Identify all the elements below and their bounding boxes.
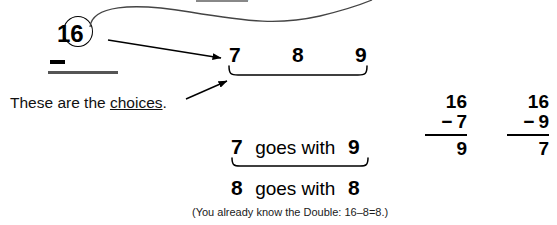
problem-2-subtrahend-row: −9 bbox=[497, 112, 549, 132]
problem-1-subtrahend-row: −7 bbox=[415, 112, 467, 132]
problem-1-difference: 9 bbox=[415, 139, 467, 159]
callout-text-after: . bbox=[163, 94, 167, 111]
pair-row-2: 8 goes with 8 bbox=[231, 177, 360, 199]
double-fact-footnote: (You already know the Double: 16–8=8.) bbox=[192, 207, 388, 218]
clipped-top-rule bbox=[196, 0, 248, 2]
problem-2-minuend: 16 bbox=[497, 92, 549, 112]
choice-digit-8: 8 bbox=[292, 44, 304, 65]
problem-1-minuend: 16 bbox=[415, 92, 467, 112]
subtraction-problem-2: 16 −9 7 bbox=[497, 92, 549, 159]
pair-2-right-digit: 8 bbox=[348, 176, 360, 199]
answer-blank-line bbox=[48, 71, 118, 74]
pair-brace bbox=[232, 158, 368, 166]
choices-brace bbox=[229, 66, 367, 75]
problem-1-rule bbox=[425, 134, 467, 136]
choice-digit-7: 7 bbox=[229, 44, 241, 65]
minuend-number: 16 bbox=[57, 22, 84, 46]
pair-row-1: 7 goes with 9 bbox=[231, 136, 360, 158]
worksheet-canvas: 16 8 16 7 8 9 These are the choices. 7 g… bbox=[0, 0, 557, 225]
problem-2-rule bbox=[507, 134, 549, 136]
subtraction-problem-1: 16 −7 9 bbox=[415, 92, 467, 159]
pair-2-left-digit: 8 bbox=[231, 176, 243, 199]
choice-digit-9: 9 bbox=[355, 44, 367, 65]
callout-text-before: These are the bbox=[10, 94, 110, 111]
pair-2-connector: goes with bbox=[255, 178, 335, 199]
problem-2-difference: 7 bbox=[497, 139, 549, 159]
pair-1-connector: goes with bbox=[255, 137, 335, 158]
problem-2-subtrahend: 9 bbox=[538, 111, 549, 132]
circle-annotation-icon bbox=[63, 16, 93, 47]
minus-operator-mark bbox=[50, 60, 65, 64]
pair-1-right-digit: 9 bbox=[348, 135, 360, 158]
sweep-curve-annotation bbox=[90, 0, 372, 27]
pair-1-left-digit: 7 bbox=[231, 135, 243, 158]
problem-1-subtrahend: 7 bbox=[456, 111, 467, 132]
arrow-from-callout bbox=[186, 81, 227, 99]
arrow-to-choices bbox=[108, 40, 221, 58]
callout-emphasis-word: choices bbox=[110, 94, 163, 111]
circled-ones-digit: 6 bbox=[70, 22, 83, 46]
problem-1-operator: − bbox=[441, 111, 452, 132]
choices-callout-text: These are the choices. bbox=[10, 95, 167, 111]
problem-2-operator: − bbox=[523, 111, 534, 132]
